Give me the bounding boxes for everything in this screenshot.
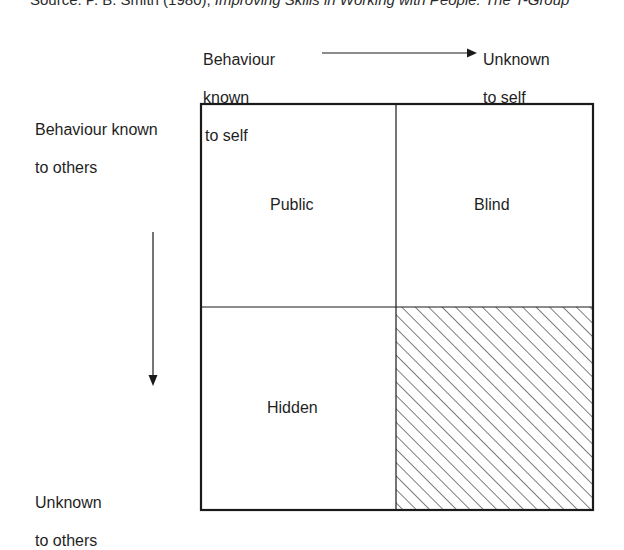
arrow-right-icon (322, 49, 477, 58)
quadrant-label-hidden: Hidden (267, 399, 318, 417)
quadrant-label-public: Public (270, 196, 314, 214)
arrow-down-icon (149, 232, 158, 386)
quadrant-unknown-hatched (396, 307, 593, 510)
quadrant-label-blind: Blind (474, 196, 510, 214)
